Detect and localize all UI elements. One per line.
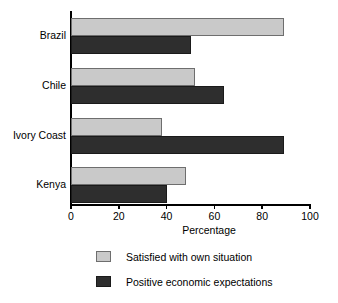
x-tick-mark bbox=[166, 205, 168, 209]
bar bbox=[71, 68, 195, 86]
x-axis-title-text: Percentage bbox=[182, 224, 236, 236]
bar bbox=[71, 18, 284, 36]
legend-swatch bbox=[96, 251, 111, 262]
chart-legend: Satisfied with own situationPositive eco… bbox=[96, 250, 336, 300]
bar bbox=[71, 136, 284, 154]
x-tick-mark bbox=[118, 205, 120, 209]
x-tick-label: 20 bbox=[113, 210, 125, 222]
x-tick-label: 100 bbox=[301, 210, 319, 222]
x-tick-mark bbox=[261, 205, 263, 209]
x-tick-mark bbox=[309, 205, 311, 209]
legend-item: Satisfied with own situation bbox=[96, 250, 336, 263]
legend-label: Positive economic expectations bbox=[126, 276, 273, 288]
x-axis-line bbox=[70, 204, 311, 206]
legend-swatch bbox=[96, 276, 111, 287]
category-label: Chile bbox=[0, 80, 66, 91]
x-tick-label: 0 bbox=[68, 210, 74, 222]
x-tick-label: 80 bbox=[256, 210, 268, 222]
bar bbox=[71, 118, 162, 136]
bar bbox=[71, 36, 191, 54]
category-label: Ivory Coast bbox=[0, 130, 66, 141]
legend-item: Positive economic expectations bbox=[96, 275, 336, 288]
x-tick-mark bbox=[70, 205, 72, 209]
bar-chart: BrazilChileIvory CoastKenya 020406080100… bbox=[0, 0, 338, 303]
bar bbox=[71, 86, 224, 104]
legend-label: Satisfied with own situation bbox=[126, 251, 252, 263]
category-label: Brazil bbox=[0, 30, 66, 41]
x-tick-label: 40 bbox=[161, 210, 173, 222]
x-axis-title: Percentage bbox=[0, 224, 338, 236]
x-tick-label: 60 bbox=[209, 210, 221, 222]
x-tick-mark bbox=[214, 205, 216, 209]
bar bbox=[71, 185, 167, 203]
bar bbox=[71, 167, 186, 185]
category-label: Kenya bbox=[0, 179, 66, 190]
